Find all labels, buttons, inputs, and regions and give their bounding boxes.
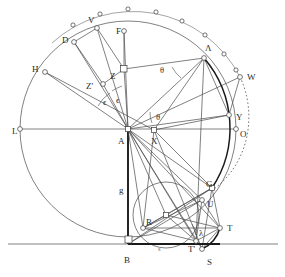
label-O: O [240, 130, 247, 139]
label-theta-2: θ [156, 113, 160, 122]
label-small-mark: s [158, 246, 161, 253]
label-segment-g: g [119, 186, 124, 195]
label-B: B [124, 256, 130, 265]
label-L: L [12, 127, 18, 136]
label-T: T [227, 224, 233, 233]
label-G: G [206, 180, 213, 189]
label-A: A [118, 137, 125, 146]
label-theta-1: θ [160, 66, 164, 75]
label-Z-prime: Z' [86, 82, 93, 91]
label-V: V [88, 16, 95, 25]
label-epsilon-2: ϵ [116, 96, 119, 105]
Z-construction [74, 28, 204, 129]
label-lambda: λ [199, 229, 203, 238]
thick-arc-Lambda-G [204, 58, 230, 188]
label-X: X [151, 137, 158, 146]
rays-from-A [45, 28, 240, 249]
label-F: F [116, 27, 121, 36]
label-D: D [62, 36, 69, 45]
label-Z: Z [110, 72, 116, 81]
label-Y: Y [236, 113, 243, 122]
label-epsilon-1: ϵ [103, 98, 106, 107]
point-nodes [18, 26, 243, 252]
figure-canvas: .ln { stroke:#4a4a4a; stroke-width:0.7; … [0, 0, 285, 277]
label-R: R [146, 218, 152, 227]
label-H: H [32, 65, 39, 74]
label-U: U [207, 200, 214, 209]
label-S: S [207, 258, 212, 267]
label-W: W [247, 73, 256, 82]
label-Lambda: Λ [205, 44, 212, 53]
label-T-prime: T' [188, 245, 195, 254]
